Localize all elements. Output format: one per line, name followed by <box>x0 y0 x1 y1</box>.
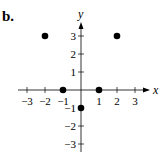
x-axis-arrow-icon <box>143 88 150 93</box>
x-tick-label: 1 <box>96 95 102 107</box>
data-point <box>96 87 103 94</box>
y-tick-label: 1 <box>71 66 77 78</box>
x-tick-label: −2 <box>39 95 51 107</box>
data-point <box>42 33 49 40</box>
y-tick-label: −1 <box>64 102 76 114</box>
y-axis-label: y <box>77 7 84 21</box>
y-axis-arrow-icon <box>79 22 84 29</box>
data-point <box>114 33 121 40</box>
x-tick-label: 3 <box>132 95 138 107</box>
x-axis-label: x <box>152 83 159 97</box>
data-point <box>78 105 85 112</box>
x-tick-label: −3 <box>21 95 33 107</box>
y-tick-label: 2 <box>71 48 77 60</box>
scatter-plot: xy−3−2−1123321−1−2−3 <box>0 0 165 157</box>
y-tick-label: −2 <box>64 120 76 132</box>
data-point <box>60 87 67 94</box>
y-tick-label: −3 <box>64 138 76 150</box>
x-tick-label: 2 <box>114 95 120 107</box>
y-tick-label: 3 <box>71 30 77 42</box>
